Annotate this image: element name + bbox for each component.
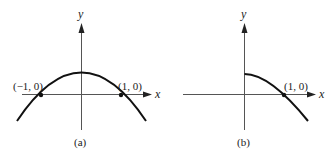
point-neg1-0 <box>39 93 43 97</box>
caption-b: (b) <box>237 136 250 149</box>
y-axis-arrow-icon <box>242 23 248 33</box>
x-axis-label-b: x <box>318 87 325 101</box>
point-label-1-0-a: (1, 0) <box>118 80 142 93</box>
point-1-0-a <box>119 93 123 97</box>
point-label-1-0-b: (1, 0) <box>284 80 308 93</box>
y-axis-label-a: y <box>77 7 84 21</box>
y-axis-arrow-icon <box>79 23 85 33</box>
caption-a: (a) <box>74 136 87 149</box>
point-label-neg1-0: (−1, 0) <box>13 80 43 93</box>
figure-canvas: (−1, 0) (1, 0) x y (a) (1, 0) x y (b) <box>0 0 332 153</box>
point-1-0-b <box>282 93 286 97</box>
x-axis-arrow-icon <box>307 92 316 98</box>
panel-b: (1, 0) x y (b) <box>183 7 325 149</box>
x-axis-arrow-icon <box>143 92 152 98</box>
y-axis-label-b: y <box>240 7 247 21</box>
panel-a: (−1, 0) (1, 0) x y (a) <box>13 7 161 149</box>
x-axis-label-a: x <box>154 87 161 101</box>
